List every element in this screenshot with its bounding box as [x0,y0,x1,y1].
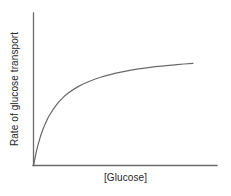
y-axis-label-container: Rate of glucose transport [0,13,30,165]
x-axis-label: [Glucose] [33,172,218,184]
chart-figure: [Glucose] Rate of glucose transport [0,0,231,196]
glucose-transport-curve [34,63,194,165]
y-axis-label: Rate of glucose transport [9,32,21,146]
chart-plot-area [0,0,231,196]
